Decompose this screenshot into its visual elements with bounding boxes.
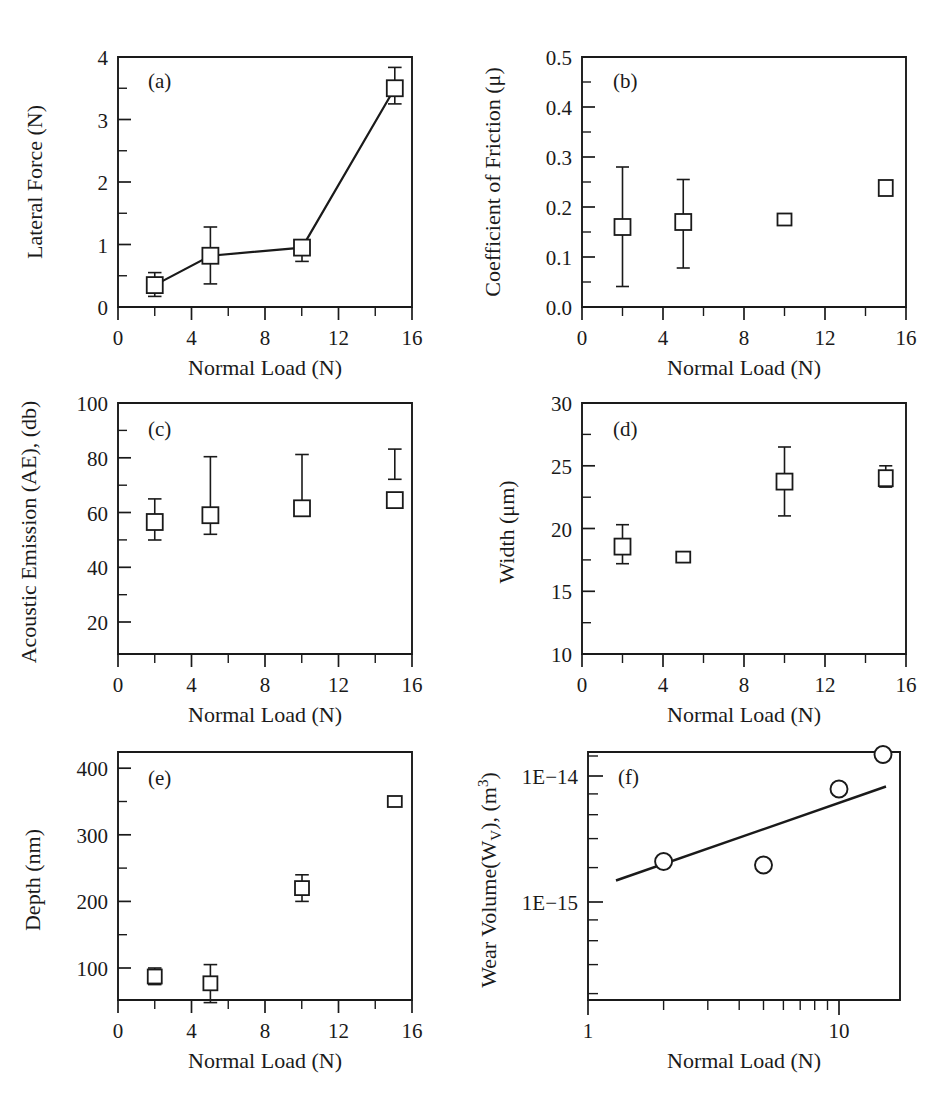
tick-label: 60 (87, 502, 108, 526)
tick-label: 25 (551, 455, 572, 479)
tick-label: 300 (77, 824, 109, 848)
panel-c-x-ticks (118, 654, 412, 667)
panel-a-x-ticks (118, 307, 412, 320)
panel-f-svg: 1E−14 1E−15 1 10 Normal Load (N) Wear Vo… (466, 720, 936, 1108)
tick-label: 4 (658, 326, 669, 350)
panel-b-x-ticklabels: 0 4 8 12 16 (577, 326, 917, 350)
panel-e-depth: 100 200 300 400 0 4 8 12 16 Normal Load … (0, 720, 470, 1108)
tick-label: 200 (77, 890, 109, 914)
panel-a-frame (118, 57, 412, 307)
tick-label: 8 (739, 673, 750, 697)
tick-label: 15 (551, 580, 572, 604)
panel-e-xlabel: Normal Load (N) (188, 1048, 342, 1073)
tick-label: 16 (402, 673, 423, 697)
panel-b-y-ticks (582, 57, 595, 307)
tick-label: 16 (896, 326, 917, 350)
tick-label: 8 (260, 326, 271, 350)
panel-e-x-ticks (118, 1000, 412, 1013)
panel-b-data (615, 167, 893, 287)
panel-f-x-ticklabels: 1 10 (583, 1019, 850, 1043)
tick-label: 0.4 (546, 96, 573, 120)
tick-label: 20 (551, 518, 572, 542)
panel-a-y-ticklabels: 0 1 2 3 4 (98, 46, 109, 320)
panel-f-y-ticks (588, 756, 603, 994)
tick-label: 40 (87, 556, 108, 580)
tick-label: 0 (113, 673, 124, 697)
panel-d-x-ticks (582, 654, 906, 667)
tick-label: 12 (328, 673, 349, 697)
panel-f-xlabel: Normal Load (N) (667, 1048, 821, 1073)
tick-label: 4 (98, 46, 109, 70)
panel-e-y-ticks (118, 768, 131, 968)
panel-e-x-ticklabels: 0 4 8 12 16 (113, 1019, 423, 1043)
panel-c-acoustic-emission: 20 40 60 80 100 0 4 8 12 16 Normal Load … (0, 360, 470, 740)
panel-a-x-ticklabels: 0 4 8 12 16 (113, 326, 423, 350)
panel-a-y-ticks (118, 57, 131, 307)
ylabel-sup: 3 (475, 780, 491, 788)
panel-c-label: (c) (148, 417, 171, 441)
panel-b-ylabel: Coefficient of Friction (μ) (480, 67, 505, 297)
panel-e-svg: 100 200 300 400 0 4 8 12 16 Normal Load … (0, 720, 470, 1108)
ylabel-mid: ), (m (476, 787, 501, 830)
tick-label: 0.5 (546, 46, 572, 70)
tick-label: 12 (815, 673, 836, 697)
tick-label: 0.0 (546, 296, 572, 320)
panel-f-data (616, 746, 892, 881)
tick-label: 4 (186, 1019, 197, 1043)
panel-d-width: 10 15 20 25 30 0 4 8 12 16 Normal Load (… (466, 360, 936, 740)
panel-b-svg: 0.0 0.1 0.2 0.3 0.4 0.5 0 4 8 12 16 Norm… (466, 0, 936, 380)
ylabel-post: ) (476, 772, 501, 779)
tick-label: 0 (577, 326, 588, 350)
panel-a-lateral-force: 0 1 2 3 4 0 4 8 12 16 Normal Load (N) La… (0, 0, 470, 380)
tick-label: 16 (402, 1019, 423, 1043)
panel-b-friction-coefficient: 0.0 0.1 0.2 0.3 0.4 0.5 0 4 8 12 16 Norm… (466, 0, 936, 380)
ylabel-pre: Wear Volume(W (476, 840, 501, 987)
panel-f-y-ticklabels: 1E−14 1E−15 (522, 765, 579, 915)
ylabel-sub: V (488, 830, 504, 841)
tick-label: 12 (328, 326, 349, 350)
tick-label: 100 (77, 957, 109, 981)
tick-label: 12 (328, 1019, 349, 1043)
panel-a-svg: 0 1 2 3 4 0 4 8 12 16 Normal Load (N) La… (0, 0, 470, 380)
tick-label: 10 (829, 1019, 850, 1043)
tick-label: 3 (98, 109, 109, 133)
panel-e-label: (e) (148, 766, 171, 790)
panel-f-x-ticks (588, 1000, 839, 1015)
tick-label: 4 (186, 326, 197, 350)
tick-label: 4 (658, 673, 669, 697)
panel-e-ylabel: Depth (nm) (20, 829, 45, 931)
tick-label: 8 (260, 1019, 271, 1043)
tick-label: 80 (87, 447, 108, 471)
panel-d-y-ticklabels: 10 15 20 25 30 (551, 392, 572, 667)
panel-a-label: (a) (148, 69, 171, 93)
tick-label: 100 (77, 392, 109, 416)
tick-label: 0 (113, 1019, 124, 1043)
tick-label: 0 (113, 326, 124, 350)
panel-c-x-ticklabels: 0 4 8 12 16 (113, 673, 423, 697)
tick-label: 30 (551, 392, 572, 416)
panel-c-data (147, 449, 403, 540)
panel-b-label: (b) (613, 69, 638, 93)
tick-label: 0 (98, 296, 109, 320)
tick-label: 1 (98, 234, 109, 258)
panel-d-y-ticks (582, 403, 595, 654)
tick-label: 8 (739, 326, 750, 350)
panel-f-frame (588, 752, 900, 1000)
tick-label: 16 (402, 326, 423, 350)
panel-d-data (615, 447, 893, 564)
panel-c-ylabel: Acoustic Emission (AE), (db) (16, 401, 41, 664)
tick-label: 12 (815, 326, 836, 350)
figure-panel-grid: 0 1 2 3 4 0 4 8 12 16 Normal Load (N) La… (0, 0, 936, 1108)
tick-label: 0.2 (546, 196, 572, 220)
tick-label: 20 (87, 611, 108, 635)
panel-a-ylabel: Lateral Force (N) (22, 105, 47, 259)
panel-b-x-ticks (582, 307, 906, 320)
panel-f-wear-volume: 1E−14 1E−15 1 10 Normal Load (N) Wear Vo… (466, 720, 936, 1108)
tick-label: 0.3 (546, 146, 572, 170)
tick-label: 4 (186, 673, 197, 697)
panel-f-label: (f) (618, 765, 639, 789)
panel-e-data (148, 796, 402, 1003)
panel-d-label: (d) (613, 417, 638, 441)
tick-label: 10 (551, 643, 572, 667)
tick-label: 400 (77, 757, 109, 781)
